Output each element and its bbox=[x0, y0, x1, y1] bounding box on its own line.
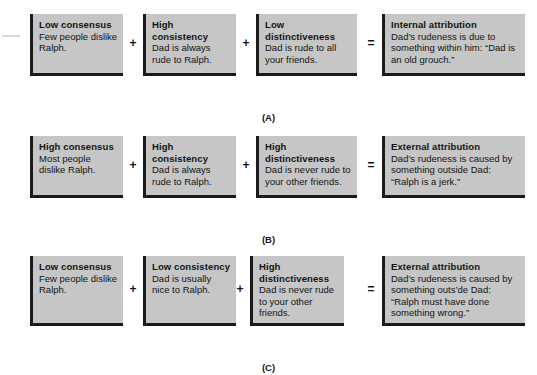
box-body: Dad’s rudeness is caused by something ou… bbox=[391, 153, 520, 188]
box-attribution-result: Internal attribution Dad’s rudeness is d… bbox=[382, 14, 525, 76]
box-distinctiveness: High distinctiveness Dad is never rude t… bbox=[256, 136, 357, 198]
box-heading: Low distinctiveness bbox=[265, 19, 352, 42]
box-consensus: Low consensus Few people dislike Ralph. bbox=[30, 256, 123, 326]
operator-plus-icon: + bbox=[125, 36, 141, 50]
scan-artifact bbox=[2, 35, 20, 37]
box-attribution-result: External attribution Dad’s rudeness is c… bbox=[382, 256, 525, 326]
box-body: Most people dislike Ralph. bbox=[39, 153, 118, 176]
box-heading: High distinctiveness bbox=[259, 261, 339, 284]
box-consensus: High consensus Most people dislike Ralph… bbox=[30, 136, 123, 198]
box-heading: High distinctiveness bbox=[265, 141, 352, 164]
box-heading: High consensus bbox=[39, 141, 118, 153]
box-heading: Low consensus bbox=[39, 261, 118, 273]
box-heading: High consistency bbox=[152, 19, 231, 42]
box-consistency: High consistency Dad is always rude to R… bbox=[143, 14, 236, 76]
operator-plus-icon: + bbox=[125, 282, 141, 296]
box-consensus: Low consensus Few people dislike Ralph. bbox=[30, 14, 123, 76]
box-heading: High consistency bbox=[152, 141, 231, 164]
operator-equals-icon: = bbox=[363, 158, 379, 172]
box-body: Dad is rude to all your friends. bbox=[265, 42, 352, 65]
box-body: Dad’s rudeness is due to something withi… bbox=[391, 31, 520, 66]
operator-equals-icon: = bbox=[363, 36, 379, 50]
box-consistency: High consistency Dad is always rude to R… bbox=[143, 136, 236, 198]
box-heading: Low consistency bbox=[152, 261, 231, 273]
box-body: Few people dislike Ralph. bbox=[39, 273, 118, 296]
box-body: Dad is never rude to your other friends. bbox=[259, 284, 339, 319]
operator-plus-icon: + bbox=[125, 158, 141, 172]
box-heading: Internal attribution bbox=[391, 19, 520, 31]
box-body: Dad’s rudeness is caused by something ou… bbox=[391, 273, 520, 319]
box-heading: Low consensus bbox=[39, 19, 118, 31]
attribution-theory-diagram: Low consensus Few people dislike Ralph. … bbox=[0, 0, 537, 375]
box-body: Dad is always rude to Ralph. bbox=[152, 164, 231, 187]
box-heading: External attribution bbox=[391, 141, 520, 153]
box-consistency: Low consistency Dad is usually nice to R… bbox=[143, 256, 236, 326]
operator-equals-icon: = bbox=[363, 282, 379, 296]
box-distinctiveness: High distinctiveness Dad is never rude t… bbox=[250, 256, 344, 326]
row-label: (B) bbox=[0, 234, 537, 245]
box-body: Dad is never rude to your other friends. bbox=[265, 164, 352, 187]
box-body: Dad is usually nice to Ralph. bbox=[152, 273, 231, 296]
row-label: (C) bbox=[0, 362, 537, 373]
box-body: Few people dislike Ralph. bbox=[39, 31, 118, 54]
box-heading: External attribution bbox=[391, 261, 520, 273]
operator-plus-icon: + bbox=[232, 282, 248, 296]
box-body: Dad is always rude to Ralph. bbox=[152, 42, 231, 65]
operator-plus-icon: + bbox=[238, 158, 254, 172]
box-distinctiveness: Low distinctiveness Dad is rude to all y… bbox=[256, 14, 357, 76]
row-label: (A) bbox=[0, 112, 537, 123]
operator-plus-icon: + bbox=[238, 36, 254, 50]
box-attribution-result: External attribution Dad’s rudeness is c… bbox=[382, 136, 525, 198]
